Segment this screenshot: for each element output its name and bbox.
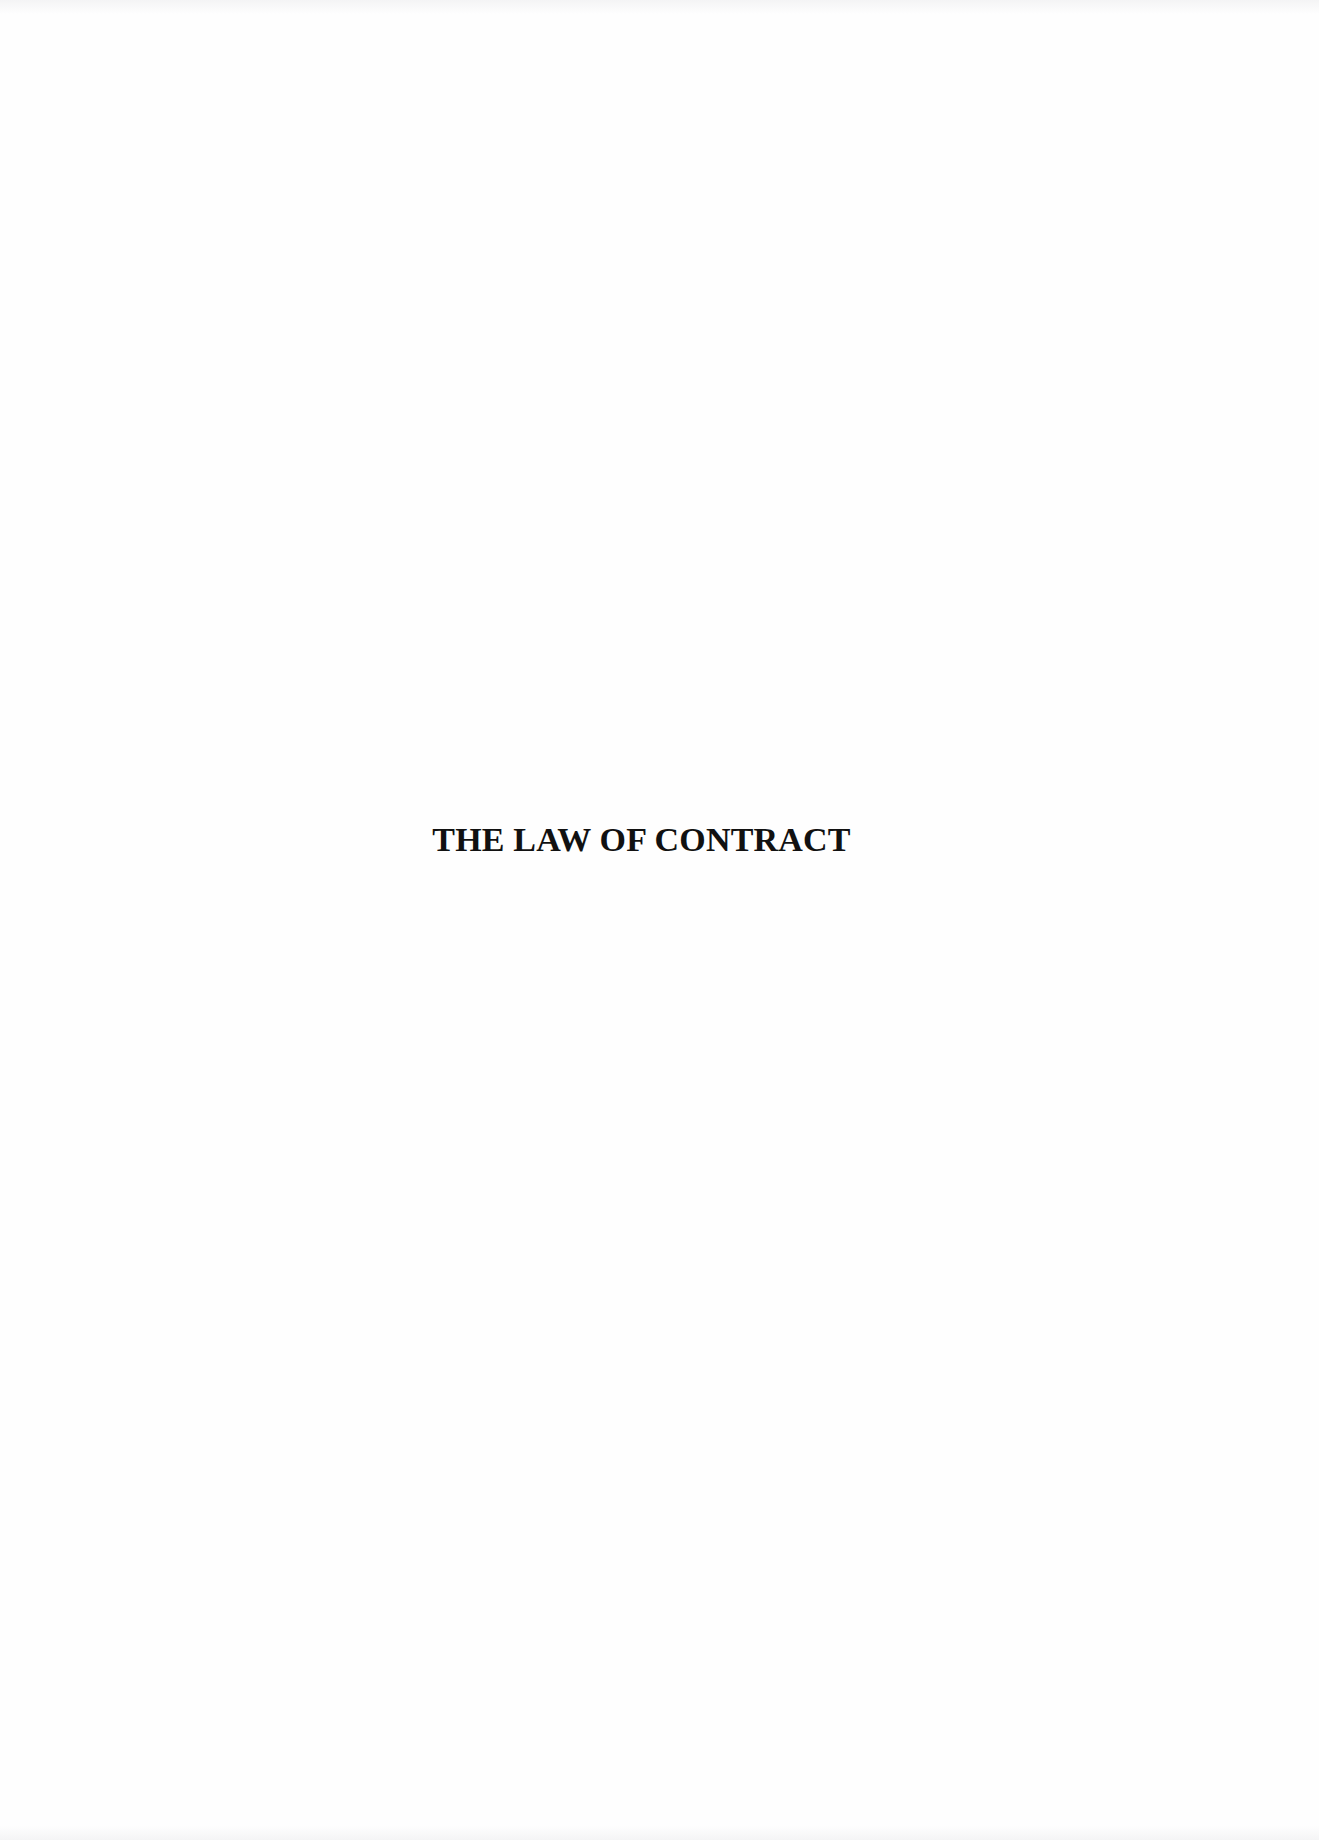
- page-title: THE LAW OF CONTRACT: [0, 820, 1283, 860]
- scan-edge-top: [0, 0, 1319, 14]
- scan-edge-bottom: [0, 1826, 1319, 1840]
- document-page: THE LAW OF CONTRACT: [0, 0, 1319, 1840]
